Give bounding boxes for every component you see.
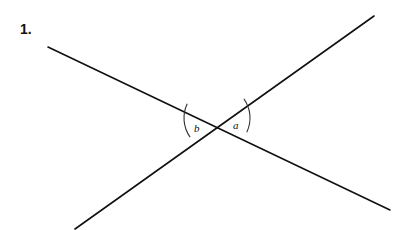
angle-arc-b (184, 104, 190, 137)
line-ascending (75, 16, 374, 229)
angle-arc-a (244, 99, 250, 132)
angle-label-a: a (233, 119, 239, 131)
angle-label-b: b (194, 122, 200, 134)
intersecting-lines-diagram: b a (0, 0, 406, 230)
line-descending (48, 47, 390, 210)
